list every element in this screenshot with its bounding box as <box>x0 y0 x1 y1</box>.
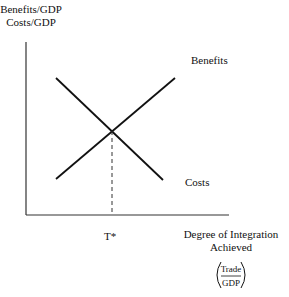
fraction-denominator: GDP <box>217 277 245 290</box>
costs-label: Costs <box>185 176 209 189</box>
y-axis-label: Benefits/GDP Costs/GDP <box>0 3 62 29</box>
x-axis-label: Degree of Integration Achieved <box>176 228 286 254</box>
intersection-label: T* <box>104 230 116 243</box>
fraction-numerator: Trade <box>217 263 245 276</box>
benefits-label: Benefits <box>191 54 228 67</box>
benefits-line <box>56 78 175 179</box>
